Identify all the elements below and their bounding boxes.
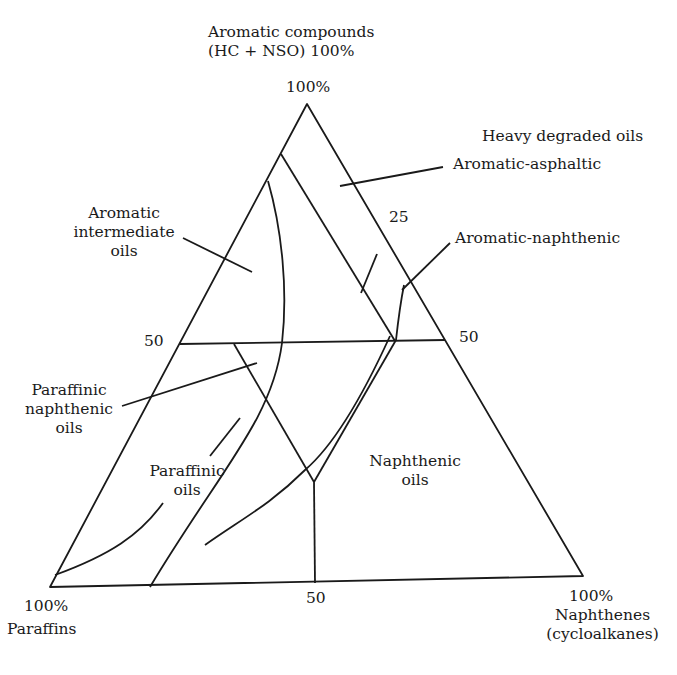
tick-right-50: 50 <box>459 328 479 347</box>
leader-aromatic-intermediate <box>183 238 252 272</box>
tick-left-50: 50 <box>144 332 164 351</box>
label-aromatic-naphthenic: Aromatic-naphthenic <box>455 229 620 248</box>
label-line: oils <box>365 471 465 490</box>
label-line: oils <box>62 242 186 261</box>
label-paraffinic-naphthenic: Paraffinic naphthenic oils <box>14 381 124 438</box>
boundary-naphthenic-vertical <box>314 482 315 583</box>
left-vertex-title: Paraffins <box>7 620 77 639</box>
leader-paraffinic-oils <box>210 418 240 456</box>
triangle-outline <box>50 104 583 587</box>
boundary-v-left <box>234 344 314 482</box>
tick-right-25: 25 <box>389 208 409 227</box>
label-line: Paraffinic <box>142 462 232 481</box>
boundary-aromatic-naphthenic <box>396 285 404 340</box>
label-aromatic-intermediate: Aromatic intermediate oils <box>62 204 186 261</box>
boundary-paraffinic-naphthenic <box>55 503 163 575</box>
boundary-heavy-degraded <box>281 154 395 341</box>
left-vertex-value: 100% <box>24 597 68 616</box>
label-paraffinic: Paraffinic oils <box>142 462 232 500</box>
right-title-line2: (cycloalkanes) <box>540 625 665 644</box>
boundary-25 <box>361 254 377 293</box>
label-naphthenic: Naphthenic oils <box>365 452 465 490</box>
label-line: oils <box>14 419 124 438</box>
top-title-line2: (HC + NSO) 100% <box>208 42 374 61</box>
ternary-diagram <box>0 0 677 675</box>
label-line: naphthenic <box>14 400 124 419</box>
label-aromatic-asphaltic: Aromatic-asphaltic <box>453 155 601 174</box>
leader-aromatic-asphaltic <box>340 167 443 186</box>
right-title-line1: Naphthenes <box>540 606 665 625</box>
leader-paraffinic-naphthenic <box>122 363 257 406</box>
top-title-line1: Aromatic compounds <box>208 23 374 42</box>
right-vertex-label: 100% Naphthenes (cycloalkanes) <box>540 587 665 644</box>
label-line: Paraffinic <box>14 381 124 400</box>
tick-bottom-50: 50 <box>306 589 326 608</box>
right-vertex-value: 100% <box>540 587 665 606</box>
line-50-percent-aromatics <box>180 340 445 344</box>
label-line: Aromatic <box>62 204 186 223</box>
label-line: oils <box>142 481 232 500</box>
label-line: Naphthenic <box>365 452 465 471</box>
leader-aromatic-naphthenic <box>402 243 450 290</box>
top-vertex-value: 100% <box>286 78 330 97</box>
top-vertex-title: Aromatic compounds (HC + NSO) 100% <box>208 23 374 61</box>
label-heavy-degraded: Heavy degraded oils <box>482 127 643 146</box>
label-line: intermediate <box>62 223 186 242</box>
boundary-v-right-inner <box>205 336 390 545</box>
